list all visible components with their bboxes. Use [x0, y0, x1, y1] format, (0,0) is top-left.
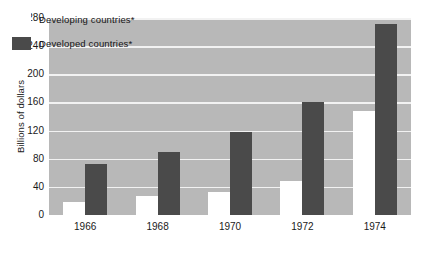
y-axis-tick-label: 80 — [16, 154, 44, 164]
bar-1974-developed — [375, 24, 397, 215]
x-axis-tick-label: 1966 — [74, 221, 96, 232]
y-axis-tick-label: 0 — [16, 210, 44, 220]
y-axis-tick-label: 160 — [16, 97, 44, 107]
x-axis-tick-labels: 19661968197019721974 — [49, 221, 411, 237]
bar-1966-developed — [85, 164, 107, 215]
y-axis-tick-label: 120 — [16, 126, 44, 136]
bar-1968-developed — [158, 152, 180, 215]
gridline — [49, 102, 411, 104]
y-axis-tick-label: 40 — [16, 182, 44, 192]
x-axis-tick-label: 1972 — [291, 221, 313, 232]
legend-item-developed: Developed countries* — [12, 36, 135, 50]
bar-1968-developing — [136, 196, 158, 215]
x-axis-tick-label: 1968 — [146, 221, 168, 232]
gridline — [49, 74, 411, 76]
bar-1972-developed — [302, 102, 324, 215]
bar-1972-developing — [280, 181, 302, 215]
legend-item-label: Developed countries* — [39, 38, 132, 49]
bar-chart: Billions of dollars 04080120160200240280… — [0, 0, 430, 259]
bar-1970-developing — [208, 192, 230, 215]
dark-swatch-icon — [12, 37, 31, 50]
white-swatch-icon — [12, 13, 31, 26]
y-axis-tick-label: 200 — [16, 69, 44, 79]
x-axis-tick-label: 1974 — [364, 221, 386, 232]
bar-1974-developing — [353, 111, 375, 215]
legend-item-developing: Developing countries* — [12, 12, 135, 26]
x-axis-tick-label: 1970 — [219, 221, 241, 232]
chart-legend: Developing countries* Developed countrie… — [12, 12, 135, 60]
legend-item-label: Developing countries* — [39, 14, 135, 25]
bar-1966-developing — [63, 202, 85, 215]
bar-1970-developed — [230, 132, 252, 215]
